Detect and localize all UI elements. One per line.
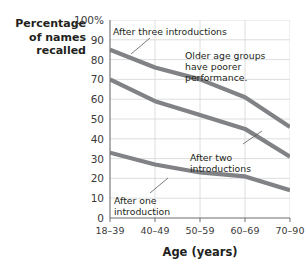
annotation-after-three: After three introductions: [113, 26, 227, 37]
annotation-older-groups: Older age groups have poorer performance…: [185, 50, 306, 83]
annotation-after-one: After one introduction: [114, 195, 170, 217]
x-tick-label: 60–69: [222, 225, 268, 236]
chart-figure: Percentage of names recalled 100%9080706…: [0, 0, 306, 265]
leader-line-after-one: [150, 178, 168, 193]
leader-line-after-three: [131, 38, 150, 54]
x-tick-label: 70–90: [267, 225, 306, 236]
x-tick-label: 18–39: [87, 225, 133, 236]
x-tick-marks: [110, 218, 290, 222]
annotation-after-two: After two introductions: [190, 152, 251, 174]
x-tick-label: 50–59: [177, 225, 223, 236]
leader-line-after-two: [243, 131, 262, 144]
x-axis-title: Age (years): [110, 245, 290, 259]
x-tick-label: 40–49: [132, 225, 178, 236]
